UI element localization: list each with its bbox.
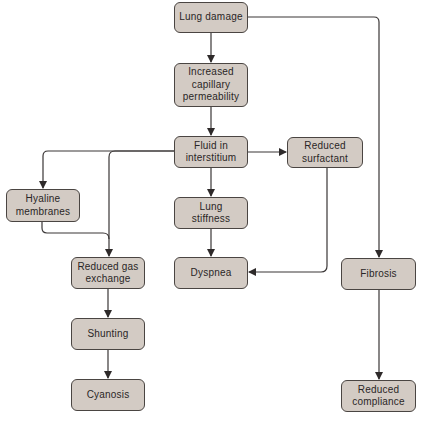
node-reduced-gas-exchange: Reduced gas exchange (71, 257, 145, 289)
node-cyanosis: Cyanosis (71, 379, 145, 411)
node-reduced-compliance: Reduced compliance (341, 380, 416, 412)
node-lung-damage: Lung damage (174, 2, 248, 33)
node-reduced-surfactant: Reduced surfactant (287, 137, 363, 168)
edge-hyaline-gasexchange (42, 222, 109, 239)
edge-surfactant-dyspnea (249, 168, 327, 272)
edge-fluid-gasexchange (109, 151, 174, 256)
node-shunting: Shunting (71, 318, 145, 350)
node-dyspnea: Dyspnea (174, 257, 248, 289)
node-fluid-in-interstitium: Fluid in interstitium (174, 136, 248, 168)
node-fibrosis: Fibrosis (341, 258, 416, 290)
node-lung-stiffness: Lung stiffness (174, 197, 248, 229)
node-hyaline-membranes: Hyaline membranes (6, 189, 80, 222)
node-increased-capillary-permeability: Increased capillary permeability (174, 63, 248, 107)
